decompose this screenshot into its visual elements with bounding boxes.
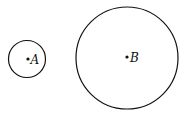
label-a: A (30, 53, 40, 67)
label-b: B (129, 51, 139, 65)
center-point-a (26, 57, 29, 60)
center-point-b (125, 55, 128, 58)
diagram-canvas: A B (0, 0, 190, 119)
